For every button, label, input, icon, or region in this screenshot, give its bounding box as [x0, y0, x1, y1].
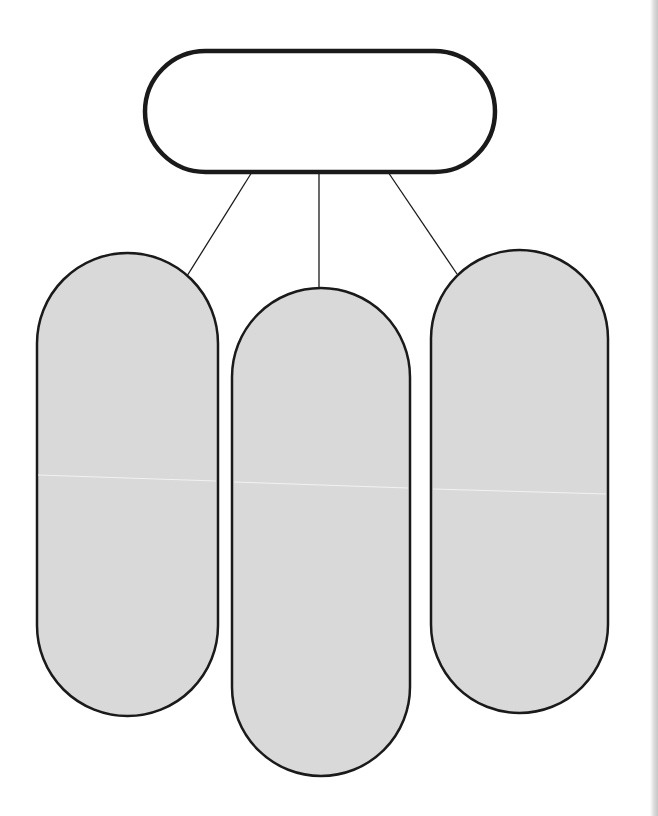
child-node-left-label: [42, 258, 213, 711]
graphic-organizer-canvas: [0, 0, 658, 816]
child-node-right-label: [436, 255, 603, 708]
root-node-label: [150, 56, 490, 167]
page-edge-shadow: [650, 0, 658, 816]
child-node-middle-label: [237, 293, 405, 771]
